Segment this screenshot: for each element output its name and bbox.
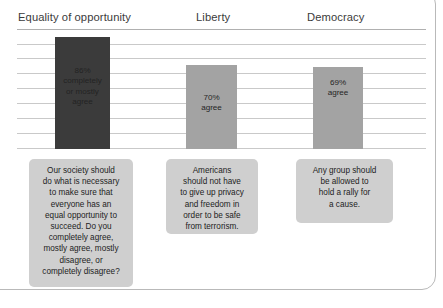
chart-plot-area: Equality of opportunity Liberty Democrac… [0,0,443,308]
bar-liberty: 70% agree [186,65,237,149]
column-header-equality-of-opportunity: Equality of opportunity [18,11,131,23]
caption-box-liberty: Americans should not have to give up pri… [166,159,258,234]
column-header-democracy: Democracy [307,11,364,23]
column-header-liberty: Liberty [196,11,230,23]
bar-value-label-liberty: 70% agree [186,93,237,114]
chart-slide: Equality of opportunity Liberty Democrac… [0,0,443,308]
bar-value-label-equality-of-opportunity: 86% completely or mostly agree [55,66,110,108]
bar-democracy: 69% agree [313,67,363,149]
gridline-0 [17,29,426,30]
caption-box-equality-of-opportunity: Our society should do what is necessary … [29,159,133,287]
bar-equality-of-opportunity: 86% completely or mostly agree [55,37,110,149]
caption-box-democracy: Any group should be allowed to hold a ra… [296,159,393,223]
bar-value-label-democracy: 69% agree [313,78,363,99]
